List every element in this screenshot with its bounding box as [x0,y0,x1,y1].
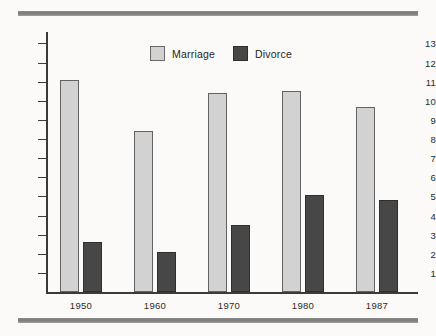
chart-legend: Marriage Divorce [150,46,292,61]
y-tick-mark [38,196,46,197]
x-tick-label: 1950 [61,300,101,311]
chart-page: 12345678910111213 19501960197019801987 M… [0,0,436,336]
bar-marriage-1950 [60,80,79,292]
y-tick-mark [38,216,46,217]
y-tick-mark [38,235,46,236]
x-tick-label: 1980 [283,300,323,311]
y-tick-mark [38,82,46,83]
y-tick-mark [38,63,46,64]
bar-group [122,32,196,292]
bar-group [270,32,344,292]
bar-marriage-1987 [356,107,375,292]
x-tick-label: 1960 [135,300,175,311]
y-tick-mark [38,101,46,102]
y-tick-mark [38,43,46,44]
y-tick-mark [38,158,46,159]
bottom-rule [18,318,418,323]
y-tick-mark [38,273,46,274]
y-tick-mark [38,254,46,255]
bar-divorce-1970 [231,225,250,292]
bar-divorce-1987 [379,200,398,292]
bar-divorce-1960 [157,252,176,292]
legend-label-divorce: Divorce [255,48,292,60]
bar-marriage-1980 [282,91,301,292]
y-tick-mark [38,120,46,121]
divorce-swatch-icon [233,46,248,61]
bar-marriage-1970 [208,93,227,292]
bar-group [196,32,270,292]
top-rule [18,11,418,16]
bar-marriage-1960 [134,131,153,292]
marriage-swatch-icon [150,46,165,61]
x-tick-label: 1987 [357,300,397,311]
bar-divorce-1950 [83,242,102,292]
bar-group [344,32,418,292]
bar-group [48,32,122,292]
legend-label-marriage: Marriage [172,48,215,60]
x-axis-line [46,292,418,294]
bar-series-layer [48,32,418,292]
y-tick-mark [38,139,46,140]
legend-item-divorce: Divorce [233,46,292,61]
legend-item-marriage: Marriage [150,46,215,61]
plot-area: 12345678910111213 19501960197019801987 M… [0,22,436,312]
bar-divorce-1980 [305,195,324,293]
y-tick-mark [38,177,46,178]
x-tick-label: 1970 [209,300,249,311]
